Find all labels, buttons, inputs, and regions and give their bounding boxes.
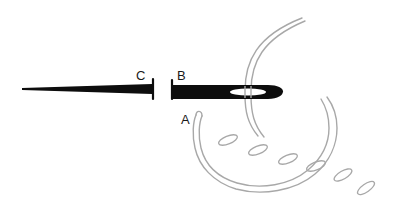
illustration-canvas: C B A bbox=[0, 0, 394, 204]
needle-thread-diagram: C B A bbox=[0, 0, 394, 204]
label-a: A bbox=[181, 112, 190, 127]
stitch-mark bbox=[332, 167, 353, 184]
stitch-marks bbox=[217, 133, 376, 197]
label-c: C bbox=[136, 68, 145, 83]
stitch-mark bbox=[247, 143, 269, 158]
label-b: B bbox=[177, 68, 186, 83]
stitch-mark bbox=[356, 179, 377, 197]
needle-eye bbox=[230, 88, 266, 95]
stitch-mark bbox=[217, 133, 239, 148]
needle-shaft-segment bbox=[172, 80, 283, 99]
stitch-mark bbox=[277, 152, 299, 167]
thread-lower-strand bbox=[245, 95, 264, 137]
stitch-mark bbox=[305, 159, 327, 174]
needle-point-segment bbox=[22, 79, 153, 99]
thread-upper-strand bbox=[245, 18, 305, 91]
